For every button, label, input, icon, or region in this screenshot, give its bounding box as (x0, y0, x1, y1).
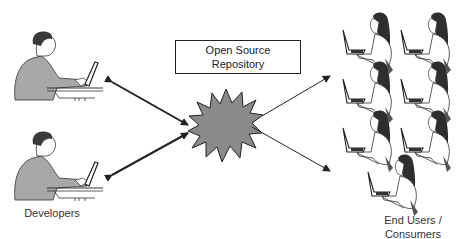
end-users-label-line1: End Users / (378, 213, 448, 227)
repository-label-line1: Open Source (206, 43, 271, 57)
arrow-developer-repository (112, 82, 188, 125)
starburst-icon (188, 89, 263, 162)
developers-label: Developers (22, 206, 82, 220)
end-users-label-line2: Consumers (378, 227, 448, 239)
diagram-canvas (0, 0, 468, 239)
repository-box: Open Source Repository (175, 40, 301, 74)
end-user-figure (343, 111, 393, 172)
arrow-developer-repository (112, 133, 188, 175)
end-user-figure (368, 155, 418, 216)
repository-label-line2: Repository (212, 57, 265, 71)
developer-figure (15, 132, 103, 202)
arrow-repository-users (252, 127, 330, 171)
end-users-label: End Users / Consumers (378, 213, 448, 239)
developer-figure (15, 32, 103, 102)
arrow-repository-users (262, 76, 330, 116)
